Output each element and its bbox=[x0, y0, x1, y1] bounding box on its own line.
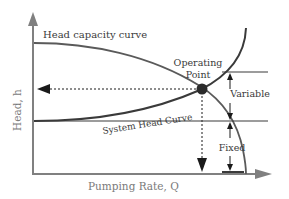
x-axis-arrow-icon bbox=[255, 169, 272, 179]
variable-up-arrow-icon bbox=[227, 73, 233, 80]
y-axis bbox=[28, 12, 38, 175]
system-head-curve bbox=[34, 28, 246, 121]
fixed-up-arrow-icon bbox=[227, 122, 233, 129]
x-axis bbox=[33, 169, 272, 179]
fixed-label: Fixed bbox=[219, 142, 246, 153]
head-capacity-curve-label: Head capacity curve bbox=[43, 29, 147, 40]
operating-point-label-line2: Point bbox=[186, 69, 211, 80]
rate-projection-arrow-icon bbox=[197, 158, 207, 172]
y-axis-arrow-icon bbox=[28, 12, 38, 26]
head-projection-arrow-icon bbox=[37, 84, 50, 94]
y-axis-label: Head, h bbox=[11, 89, 23, 131]
operating-point-marker bbox=[197, 84, 208, 95]
variable-label: Variable bbox=[229, 88, 270, 99]
operating-point-label-line1: Operating bbox=[174, 57, 223, 68]
fixed-down-arrow-icon bbox=[227, 164, 233, 171]
pump-curve-diagram: Head capacity curve Operating Point Vari… bbox=[0, 0, 289, 199]
x-axis-label: Pumping Rate, Q bbox=[88, 180, 179, 192]
